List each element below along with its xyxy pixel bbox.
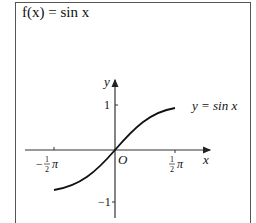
- x-tick-label-neg-half-pi: − 1 2 π: [36, 155, 59, 174]
- sine-graph: y x O 1 −1 y = sin x − 1 2 π 1 2 π: [0, 0, 256, 223]
- svg-text:−: −: [36, 157, 43, 171]
- curve-label: y = sin x: [190, 98, 237, 113]
- y-tick-label-neg1: −1: [98, 195, 111, 209]
- svg-text:1: 1: [45, 155, 49, 164]
- y-tick-label-1: 1: [104, 98, 110, 112]
- x-tick-label-half-pi: 1 2 π: [169, 155, 184, 174]
- svg-text:2: 2: [45, 165, 49, 174]
- y-axis-label: y: [102, 74, 110, 89]
- origin-label: O: [118, 152, 128, 167]
- svg-text:π: π: [177, 157, 184, 171]
- svg-text:1: 1: [170, 155, 174, 164]
- svg-text:2: 2: [170, 165, 174, 174]
- svg-text:π: π: [52, 157, 59, 171]
- x-axis-label: x: [202, 152, 209, 167]
